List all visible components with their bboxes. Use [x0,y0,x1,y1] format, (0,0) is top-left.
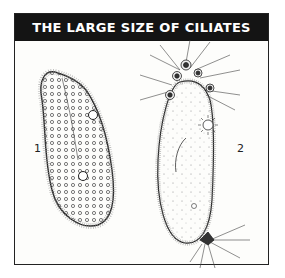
ciliates-illustration [0,0,285,278]
paramecium-drawing [41,72,114,226]
label-1: 1 [34,142,41,155]
ciliate-2-drawing [140,40,250,268]
label-2: 2 [237,142,244,155]
